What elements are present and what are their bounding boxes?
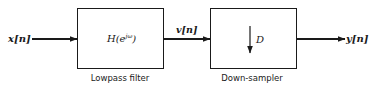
lowpass-filter-caption: Lowpass filter (91, 73, 150, 83)
down-sampler-block: D (211, 9, 297, 69)
lowpass-filter-block: H(ejω) (78, 9, 164, 69)
input-signal-label: x[n] (7, 33, 31, 44)
output-signal-label: y[n] (345, 33, 369, 44)
intermediate-signal-label: v[n] (176, 24, 198, 35)
down-sampler-caption: Down-sampler (221, 73, 283, 83)
downsample-factor-label: D (255, 34, 264, 45)
transfer-function-label: H(ejω) (106, 32, 136, 44)
block-diagram: x[n] H(ejω) Lowpass filter v[n] D Down-s… (0, 0, 373, 87)
